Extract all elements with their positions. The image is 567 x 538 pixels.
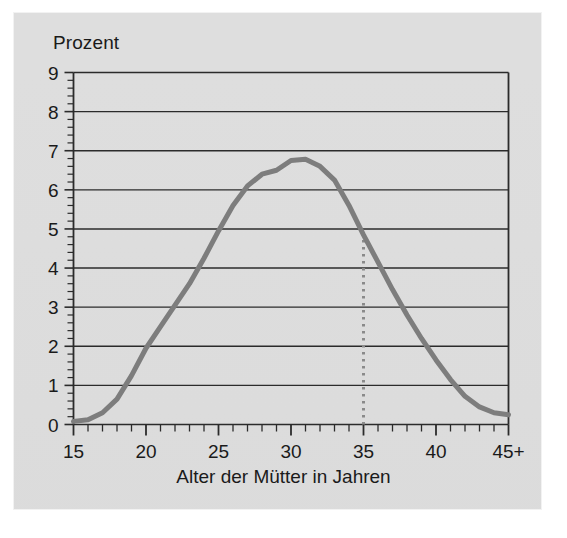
y-tick-label: 8 <box>48 102 59 123</box>
x-tick-label: 35 <box>353 441 374 462</box>
y-tick-label: 2 <box>48 336 59 357</box>
y-tick-label: 9 <box>48 63 59 84</box>
y-tick-label: 0 <box>48 415 59 436</box>
x-tick-label: 15 <box>63 441 84 462</box>
y-tick-label: 4 <box>48 258 59 279</box>
y-tick-label: 5 <box>48 219 59 240</box>
y-axis-ticks <box>65 73 74 425</box>
x-tick-label: 40 <box>425 441 446 462</box>
y-tick-label: 3 <box>48 297 59 318</box>
y-tick-label: 1 <box>48 375 59 396</box>
chart-figure: Prozent 0123456789 15202530354045+ Alter… <box>0 0 567 538</box>
data-series <box>74 159 509 421</box>
x-axis-title: Alter der Mütter in Jahren <box>0 466 567 488</box>
x-tick-label: 25 <box>208 441 229 462</box>
y-tick-label: 7 <box>48 141 59 162</box>
plot-area: 0123456789 15202530354045+ <box>0 0 567 538</box>
x-tick-label: 30 <box>280 441 301 462</box>
x-axis-ticks <box>74 425 509 436</box>
x-axis-tick-labels: 15202530354045+ <box>63 441 525 462</box>
y-tick-label: 6 <box>48 180 59 201</box>
x-tick-label: 20 <box>135 441 156 462</box>
x-tick-label: 45+ <box>492 441 524 462</box>
y-axis-tick-labels: 0123456789 <box>48 63 59 436</box>
